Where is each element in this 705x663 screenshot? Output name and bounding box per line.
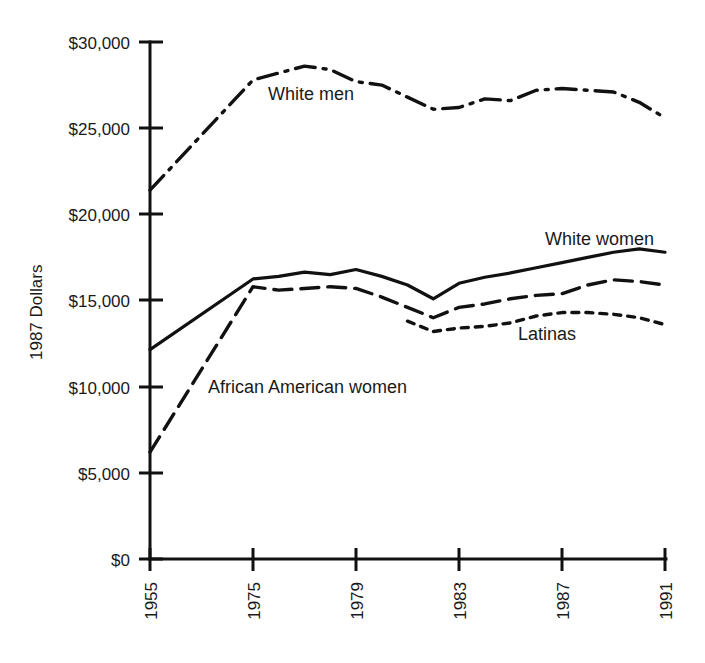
- y-tick-label-20000: $20,000: [69, 206, 130, 225]
- y-tick-label-15000: $15,000: [69, 292, 130, 311]
- series-line-african-american-women: [150, 280, 665, 452]
- series-label-african-american-women: African American women: [208, 377, 407, 397]
- series-line-white-men: [150, 66, 665, 190]
- y-tick-label-30000: $30,000: [69, 34, 130, 53]
- y-axis-title: 1987 Dollars: [27, 265, 46, 360]
- series-line-white-women: [150, 249, 665, 350]
- x-tick-label-1955: 1955: [142, 582, 161, 620]
- series-label-latinas: Latinas: [518, 324, 576, 344]
- x-tick-label-1975: 1975: [245, 582, 264, 620]
- y-tick-label-0: $0: [111, 551, 130, 570]
- y-tick-label-25000: $25,000: [69, 120, 130, 139]
- income-line-chart: $30,000 $25,000 $20,000 $15,000 $10,000 …: [0, 0, 705, 663]
- chart-page: $30,000 $25,000 $20,000 $15,000 $10,000 …: [0, 0, 705, 663]
- x-tick-label-1991: 1991: [657, 582, 676, 620]
- series-label-white-men: White men: [268, 84, 354, 104]
- y-tick-label-5000: $5,000: [78, 465, 130, 484]
- y-tick-label-10000: $10,000: [69, 379, 130, 398]
- series-label-layer: White menWhite womenAfrican American wom…: [208, 84, 654, 397]
- series-label-white-women: White women: [545, 229, 654, 249]
- x-tick-label-1987: 1987: [554, 582, 573, 620]
- x-tick-label-1979: 1979: [348, 582, 367, 620]
- x-tick-label-1983: 1983: [451, 582, 470, 620]
